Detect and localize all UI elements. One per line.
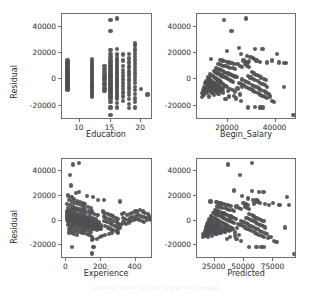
x-tick-label: 400: [128, 262, 142, 271]
data-point: [260, 47, 264, 51]
data-point: [233, 67, 237, 71]
data-point: [218, 231, 222, 235]
data-point: [254, 245, 258, 249]
ylabel-education: Residual: [10, 65, 20, 99]
data-point: [283, 225, 287, 229]
data-point: [265, 85, 269, 89]
data-point: [275, 52, 279, 56]
data-point: [221, 90, 225, 94]
y-tick-label: -20000: [25, 240, 56, 249]
y-axis-tick: [193, 52, 196, 53]
panel-education: [61, 13, 152, 119]
data-point: [268, 235, 272, 239]
data-point: [261, 245, 265, 249]
data-point: [127, 97, 131, 101]
data-point: [68, 173, 72, 177]
data-point: [90, 251, 94, 255]
y-axis-tick: [58, 195, 61, 196]
data-point: [258, 201, 262, 205]
data-point: [277, 60, 281, 64]
data-point: [240, 194, 244, 198]
data-point: [133, 105, 137, 109]
data-point: [232, 188, 236, 192]
y-axis-tick: [58, 105, 61, 106]
y-axis-tick: [58, 170, 61, 171]
data-point: [209, 57, 213, 61]
data-point: [115, 101, 119, 105]
data-point: [261, 219, 265, 223]
data-point: [247, 65, 251, 69]
scatter-points-begin-salary: [197, 14, 295, 118]
residual-plot-figure: -2000002000040000 101520 Residual Educat…: [0, 0, 311, 294]
y-tick-label: 40000: [25, 22, 56, 31]
y-axis-tick: [193, 78, 196, 79]
y-axis-tick: [193, 220, 196, 221]
x-axis-tick: [275, 119, 276, 122]
data-point: [231, 80, 235, 84]
data-point: [235, 75, 239, 79]
data-point: [238, 92, 242, 96]
panel-predicted: [196, 158, 296, 258]
panel-experience: [61, 158, 152, 258]
data-point: [232, 209, 236, 213]
x-tick-label: 0: [63, 262, 68, 271]
data-point: [102, 198, 106, 202]
data-point: [233, 234, 237, 238]
x-tick-label: 25000: [202, 262, 226, 271]
x-axis-tick: [140, 119, 141, 122]
data-point: [207, 94, 211, 98]
data-point: [239, 52, 243, 56]
data-point: [244, 16, 248, 20]
y-tick-label: 0: [160, 74, 191, 83]
data-point: [77, 190, 81, 194]
data-point: [263, 202, 267, 206]
data-point: [71, 162, 75, 166]
y-axis-tick: [58, 26, 61, 27]
data-point: [95, 228, 99, 232]
data-point: [115, 16, 119, 20]
data-point: [258, 60, 262, 64]
y-tick-label: -20000: [160, 100, 191, 109]
y-tick-label: 40000: [160, 166, 191, 175]
x-axis-tick: [79, 119, 80, 122]
data-point: [237, 233, 241, 237]
data-point: [95, 237, 99, 241]
data-point: [201, 235, 205, 239]
data-point: [127, 106, 131, 110]
data-point: [65, 88, 69, 92]
y-tick-label: -20000: [160, 240, 191, 249]
data-point: [115, 105, 119, 109]
data-point: [247, 207, 251, 211]
data-point: [247, 245, 251, 249]
y-axis-tick: [193, 26, 196, 27]
data-point: [108, 105, 112, 109]
data-point: [96, 198, 100, 202]
data-point: [127, 52, 131, 56]
data-point: [216, 92, 220, 96]
xlabel-education: Education: [86, 130, 126, 140]
data-point: [237, 46, 241, 50]
data-point: [121, 94, 125, 98]
x-axis-tick: [100, 258, 101, 261]
y-axis-tick: [193, 105, 196, 106]
data-point: [287, 203, 291, 207]
panel-begin-salary: [196, 13, 296, 119]
y-tick-label: 20000: [160, 48, 191, 57]
data-point: [222, 18, 226, 22]
data-point: [69, 183, 73, 187]
data-point: [145, 92, 149, 96]
x-axis-tick: [135, 258, 136, 261]
y-tick-label: 0: [25, 74, 56, 83]
data-point: [223, 97, 227, 101]
data-point: [291, 113, 295, 117]
y-tick-label: 20000: [25, 48, 56, 57]
data-point: [260, 105, 264, 109]
data-point: [284, 61, 288, 65]
x-tick-label: 20: [136, 123, 145, 132]
y-tick-label: 0: [160, 215, 191, 224]
data-point: [270, 58, 274, 62]
data-point: [250, 189, 254, 193]
data-point: [238, 173, 242, 177]
y-axis-tick: [193, 195, 196, 196]
data-point: [102, 88, 106, 92]
